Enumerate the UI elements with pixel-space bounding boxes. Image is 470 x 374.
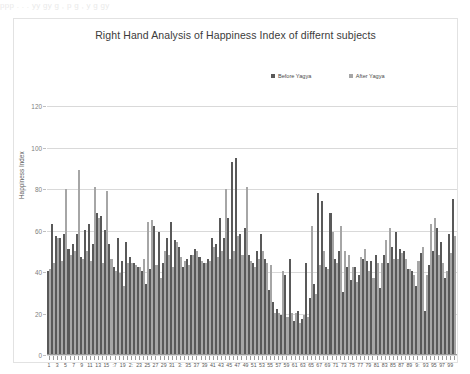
x-axis-tick-mark [123,356,124,360]
x-axis-tick-mark [233,356,234,360]
x-axis-tick-mark [192,356,193,360]
x-axis-tick-label: 1 [48,362,51,368]
x-axis-tick-label: 3 [56,362,59,368]
x-axis-tick-mark [372,356,373,360]
x-axis-tick-mark [340,356,341,360]
x-axis-tick-mark [430,356,431,360]
x-axis-line [47,354,457,355]
x-axis-tick-mark [442,356,443,360]
x-axis-tick-mark [147,356,148,360]
x-axis-tick-mark [286,356,287,360]
x-axis-tick-mark [65,356,66,360]
x-axis-tick-mark [295,356,296,360]
x-axis-tick-mark [155,356,156,360]
x-axis-tick-mark [139,356,140,360]
x-axis-tick-labels: 13579111315:7192:23252729313:35373941434… [47,362,457,372]
y-axis-tick-label: 80 [35,186,42,193]
x-axis-tick-mark [151,356,152,360]
x-axis-tick-mark [450,356,451,360]
x-axis-tick-mark [307,356,308,360]
x-axis-tick-mark [205,356,206,360]
y-axis-tick-mark [43,106,46,107]
y-axis-tick-label: 20 [35,311,42,318]
x-axis-tick-mark [422,356,423,360]
x-axis-tick-mark [57,356,58,360]
x-axis-tick-mark [168,356,169,360]
x-axis-tick-mark [356,356,357,360]
x-axis-tick-mark [188,356,189,360]
x-axis-tick-mark [250,356,251,360]
y-axis-tick-mark [43,231,46,232]
legend-label-before-yagya: Before Yagya [278,73,311,79]
x-axis-tick-mark [94,356,95,360]
x-axis-tick-mark [438,356,439,360]
page-top-bleed-text: ppp . . . yy gy g , p g , y g gy [0,0,470,12]
x-axis-tick-mark [381,356,382,360]
x-axis-tick-mark [127,356,128,360]
x-axis-tick-mark [454,356,455,360]
x-axis-tick-mark [434,356,435,360]
x-axis-tick-mark [196,356,197,360]
x-axis-tick-mark [78,356,79,360]
y-axis-tick-label: 40 [35,269,42,276]
x-axis-tick-mark [266,356,267,360]
legend-label-after-yagya: After Yagya [356,73,385,79]
x-axis-tick-mark [106,356,107,360]
x-axis-tick-mark [86,356,87,360]
x-axis-tick-mark [352,356,353,360]
x-axis-tick-mark [393,356,394,360]
x-axis-tick-mark [413,356,414,360]
x-axis-tick-mark [319,356,320,360]
x-axis-tick-mark [172,356,173,360]
x-axis-tick-mark [311,356,312,360]
y-axis-title: Happiness Index [18,151,25,199]
chart-frame: Right Hand Analysis of Happiness Index o… [13,18,458,363]
x-axis-tick-mark [221,356,222,360]
x-axis-tick-mark [385,356,386,360]
x-axis-tick-mark [426,356,427,360]
x-axis-tick-mark [49,356,50,360]
x-axis-tick-mark [348,356,349,360]
legend-item-before-yagya[interactable]: Before Yagya [271,73,311,79]
x-axis-tick-mark [135,356,136,360]
x-axis-tick-mark [209,356,210,360]
plot-area: 020406080100120 [47,106,457,355]
x-axis-tick-mark [102,356,103,360]
x-axis-tick-mark [401,356,402,360]
y-axis-tick-label: 0 [38,352,42,359]
y-axis-tick-label: 120 [31,103,42,110]
x-axis-tick-mark [258,356,259,360]
x-axis-label-cell [452,362,456,372]
y-axis-tick-mark [43,272,46,273]
x-axis-tick-mark [409,356,410,360]
x-axis-tick-mark [344,356,345,360]
x-axis-tick-mark [274,356,275,360]
y-axis-tick-label: 60 [35,228,42,235]
bar [454,236,456,354]
x-axis-tick-mark [229,356,230,360]
x-axis-tick-mark [213,356,214,360]
y-axis-tick-mark [43,189,46,190]
x-axis-tick-mark [364,356,365,360]
x-axis-tick-mark [446,356,447,360]
x-axis-tick-mark [131,356,132,360]
x-axis-tick-mark [184,356,185,360]
x-axis-tick-mark [61,356,62,360]
x-axis-tick-mark [389,356,390,360]
x-axis-tick-mark [201,356,202,360]
x-axis-tick-mark [303,356,304,360]
bars-layer [47,106,457,354]
x-axis-tick-mark [323,356,324,360]
x-axis-tick-mark [368,356,369,360]
x-axis-tick-mark [115,356,116,360]
x-axis-tick-label: 9 [80,362,83,368]
x-axis-tick-mark [176,356,177,360]
legend-swatch-before-yagya [271,74,275,78]
x-axis-tick-mark [225,356,226,360]
x-axis-tick-mark [110,356,111,360]
x-axis-tick-mark [164,356,165,360]
x-axis-tick-mark [119,356,120,360]
chart-title: Right Hand Analysis of Happiness Index o… [14,29,457,41]
y-axis-tick-mark [43,314,46,315]
legend-item-after-yagya[interactable]: After Yagya [349,73,384,79]
